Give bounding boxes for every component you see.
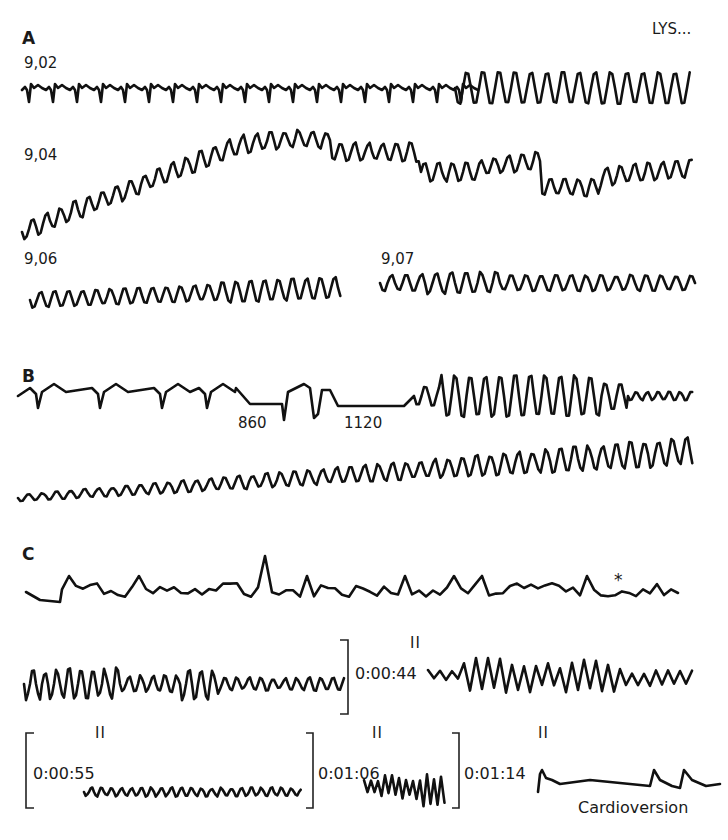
ecg-trace-c1 [26,556,678,602]
ecg-trace-c4 [84,787,301,796]
ecg-trace-a1-vt [455,72,690,103]
ecg-trace-c6 [538,770,720,792]
ecg-trace-a2 [22,130,692,239]
ecg-trace-c2 [24,668,344,701]
ecg-trace-c3 [428,658,692,693]
ecg-trace-b1 [18,375,692,420]
bracket-0055-left [26,733,34,808]
ecg-trace-b2 [18,438,692,502]
ecg-trace-a1-narrow [22,84,478,102]
bracket-0106 [306,733,313,808]
ecg-trace-a4 [380,272,695,294]
ecg-strips [0,0,728,840]
bracket-0114 [452,733,459,808]
ecg-trace-a3 [30,277,340,308]
ecg-trace-c5 [364,774,445,806]
